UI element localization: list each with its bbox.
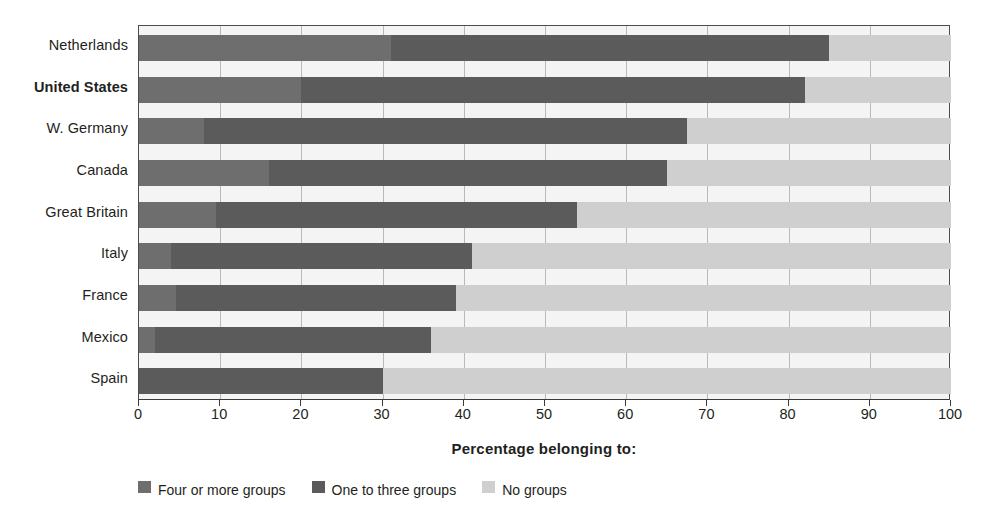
bar-row — [139, 318, 949, 360]
y-axis-label: Mexico — [0, 317, 128, 359]
bar-row — [139, 109, 949, 151]
y-axis-label: Great Britain — [0, 192, 128, 234]
x-axis-title: Percentage belonging to: — [138, 440, 950, 457]
stacked-bar[interactable] — [139, 243, 951, 269]
legend-item[interactable]: One to three groups — [312, 481, 457, 499]
x-tick-label: 100 — [920, 406, 980, 422]
x-tick-label: 30 — [352, 406, 412, 422]
bar-segment[interactable] — [805, 77, 951, 103]
y-axis-label: France — [0, 275, 128, 317]
x-tick-label: 90 — [839, 406, 899, 422]
legend-swatch-one-to-three — [312, 481, 325, 493]
bar-segment[interactable] — [139, 160, 269, 186]
bar-segment[interactable] — [139, 368, 383, 394]
y-axis-label: Italy — [0, 233, 128, 275]
x-tick-label: 10 — [189, 406, 249, 422]
bar-segment[interactable] — [139, 118, 204, 144]
bar-row — [139, 193, 949, 235]
stacked-bar[interactable] — [139, 368, 951, 394]
stacked-bar[interactable] — [139, 35, 951, 61]
chart-legend: Four or more groupsOne to three groupsNo… — [138, 481, 950, 501]
bar-segment[interactable] — [139, 243, 171, 269]
stacked-bar[interactable] — [139, 285, 951, 311]
legend-swatch-four-or-more — [138, 481, 151, 493]
bar-row — [139, 359, 949, 401]
stacked-bar[interactable] — [139, 327, 951, 353]
bar-segment[interactable] — [171, 243, 471, 269]
x-tick-label: 60 — [595, 406, 655, 422]
legend-item[interactable]: Four or more groups — [138, 481, 286, 499]
bar-row — [139, 151, 949, 193]
x-tick-label: 70 — [676, 406, 736, 422]
x-tick-label: 40 — [433, 406, 493, 422]
bar-segment[interactable] — [577, 202, 951, 228]
chart-page: NetherlandsUnited StatesW. GermanyCanada… — [0, 0, 981, 506]
x-tick-label: 0 — [108, 406, 168, 422]
bar-segment[interactable] — [431, 327, 951, 353]
x-axis-tick-labels: 0102030405060708090100 — [0, 406, 981, 428]
bar-segment[interactable] — [667, 160, 951, 186]
bar-segment[interactable] — [829, 35, 951, 61]
x-tick-label: 20 — [270, 406, 330, 422]
bar-segment[interactable] — [155, 327, 431, 353]
stacked-bar-rows — [139, 26, 949, 399]
bar-segment[interactable] — [216, 202, 577, 228]
legend-swatch-no-groups — [482, 481, 495, 493]
x-tick-label: 50 — [514, 406, 574, 422]
bar-segment[interactable] — [139, 285, 176, 311]
stacked-bar[interactable] — [139, 77, 951, 103]
bar-row — [139, 68, 949, 110]
bar-segment[interactable] — [139, 35, 391, 61]
bar-segment[interactable] — [269, 160, 667, 186]
bar-segment[interactable] — [472, 243, 951, 269]
bar-segment[interactable] — [204, 118, 687, 144]
stacked-bar[interactable] — [139, 118, 951, 144]
x-tick-label: 80 — [758, 406, 818, 422]
bar-segment[interactable] — [391, 35, 829, 61]
y-axis-label: Spain — [0, 358, 128, 400]
bar-segment[interactable] — [301, 77, 804, 103]
y-axis-label: Canada — [0, 150, 128, 192]
stacked-bar[interactable] — [139, 202, 951, 228]
y-axis-category-labels: NetherlandsUnited StatesW. GermanyCanada… — [0, 25, 128, 400]
bar-segment[interactable] — [687, 118, 951, 144]
bar-segment[interactable] — [139, 327, 155, 353]
bar-row — [139, 26, 949, 68]
legend-item[interactable]: No groups — [482, 481, 567, 499]
y-axis-label: Netherlands — [0, 25, 128, 67]
bar-segment[interactable] — [456, 285, 951, 311]
legend-label: No groups — [502, 481, 567, 499]
bar-segment[interactable] — [139, 77, 301, 103]
legend-label: Four or more groups — [158, 481, 286, 499]
legend-label: One to three groups — [332, 481, 457, 499]
bar-segment[interactable] — [139, 202, 216, 228]
bar-segment[interactable] — [383, 368, 951, 394]
bar-row — [139, 276, 949, 318]
plot-area — [138, 25, 950, 400]
y-axis-label: W. Germany — [0, 108, 128, 150]
bar-segment[interactable] — [176, 285, 456, 311]
stacked-bar[interactable] — [139, 160, 951, 186]
bar-row — [139, 234, 949, 276]
y-axis-label: United States — [0, 67, 128, 109]
